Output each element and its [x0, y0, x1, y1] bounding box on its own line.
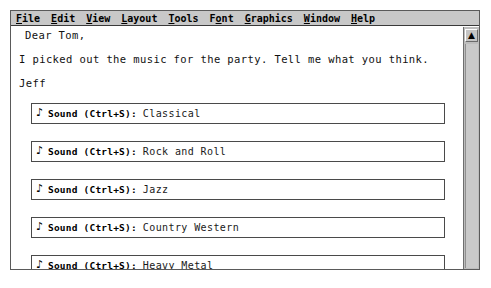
sound-object-label: Sound (Ctrl+S): [48, 222, 137, 233]
music-note-icon: ♪ [36, 221, 43, 232]
sound-object-1[interactable]: ♪ Sound (Ctrl+S): Classical [31, 103, 445, 124]
music-note-icon: ♪ [36, 145, 43, 156]
document-window: File Edit View Layout Tools Font Graphic… [10, 10, 480, 270]
menu-item-graphics[interactable]: Graphics [245, 12, 293, 25]
music-note-icon: ♪ [36, 259, 43, 269]
document-line-greeting: Dear Tom, [25, 29, 86, 41]
sound-object-5[interactable]: ♪ Sound (Ctrl+S): Heavy Metal [31, 255, 445, 269]
menu-item-layout[interactable]: Layout [121, 12, 157, 25]
menu-bar: File Edit View Layout Tools Font Graphic… [11, 11, 479, 26]
sound-object-label: Sound (Ctrl+S): [48, 184, 137, 195]
sound-object-label: Sound (Ctrl+S): [48, 108, 137, 119]
music-note-icon: ♪ [36, 107, 43, 118]
sound-object-value: Jazz [143, 184, 169, 195]
menu-item-edit[interactable]: Edit [51, 12, 75, 25]
arrow-up-glyph: ▲ [468, 31, 475, 40]
sound-object-label: Sound (Ctrl+S): [48, 260, 137, 269]
document-line-signoff: Jeff [19, 77, 46, 89]
menu-item-window[interactable]: Window [304, 12, 340, 25]
scroll-up-arrow-icon[interactable]: ▲ [465, 29, 478, 42]
vertical-scrollbar[interactable]: ▲ [463, 27, 479, 269]
sound-object-2[interactable]: ♪ Sound (Ctrl+S): Rock and Roll [31, 141, 445, 162]
document-line-body: I picked out the music for the party. Te… [19, 53, 429, 65]
menu-item-help[interactable]: Help [351, 12, 375, 25]
menu-item-file[interactable]: File [16, 12, 40, 25]
scrollbar-track[interactable] [465, 44, 478, 268]
sound-object-label: Sound (Ctrl+S): [48, 146, 137, 157]
menu-item-view[interactable]: View [86, 12, 110, 25]
sound-object-3[interactable]: ♪ Sound (Ctrl+S): Jazz [31, 179, 445, 200]
sound-object-4[interactable]: ♪ Sound (Ctrl+S): Country Western [31, 217, 445, 238]
sound-object-value: Country Western [143, 222, 239, 233]
menu-item-font[interactable]: Font [210, 12, 234, 25]
sound-object-value: Rock and Roll [143, 146, 226, 157]
sound-object-value: Heavy Metal [143, 260, 214, 269]
sound-object-value: Classical [143, 108, 201, 119]
music-note-icon: ♪ [36, 183, 43, 194]
menu-item-tools[interactable]: Tools [168, 12, 198, 25]
document-canvas[interactable]: Dear Tom, I picked out the music for the… [11, 27, 462, 269]
